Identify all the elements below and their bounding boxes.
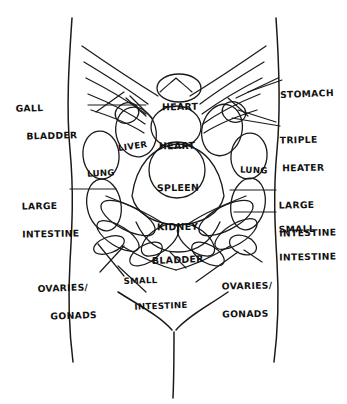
organ-zones (81, 74, 270, 252)
zone-ovary-left (91, 232, 127, 258)
reflex-zone-diagram: GALL BLADDER LARGE INTESTINE OVARIES/ GO… (0, 0, 347, 404)
leader-small-intestine-center (196, 252, 238, 282)
diagram-artwork (0, 0, 347, 404)
leader-gonads-left-down (118, 266, 146, 292)
ribcage (82, 46, 266, 133)
leader-ovaries-right (244, 250, 262, 262)
zone-lung-right (229, 131, 270, 181)
zone-lung-left (81, 129, 122, 181)
leader-lines (70, 78, 282, 292)
zone-ovary-right (227, 231, 260, 258)
